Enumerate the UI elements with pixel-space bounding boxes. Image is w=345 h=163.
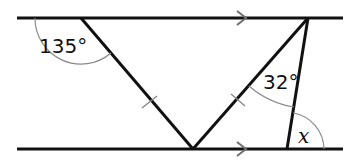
- angle-label-32: 32°: [263, 70, 298, 94]
- geometry-diagram: 135° 32° x: [0, 0, 345, 163]
- angle-label-135: 135°: [39, 34, 87, 58]
- angle-label-x: x: [298, 124, 309, 148]
- segment-top-left-to-bottom: [81, 18, 193, 149]
